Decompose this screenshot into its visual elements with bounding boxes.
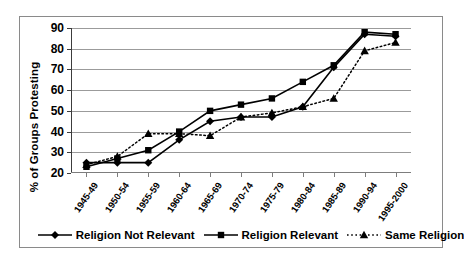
x-tick-mark [303,173,304,177]
x-tick-label: 1985-89 [319,180,348,214]
data-point-marker [207,108,213,114]
data-point-marker [269,95,275,101]
data-point-marker [361,29,367,35]
x-tick-mark [365,173,366,177]
x-tick-label: 1980-84 [288,180,317,214]
data-point-marker [51,231,59,239]
x-tick-mark [334,173,335,177]
legend-label: Same Religion [385,229,464,241]
x-tick-label: 1945-49 [72,180,101,214]
y-tick-label: 90 [51,21,64,35]
y-tick-label: 30 [51,145,64,159]
data-point-marker [300,79,306,85]
data-point-marker [330,94,338,102]
data-point-marker [238,101,244,107]
series-religion-relevant [83,29,398,170]
legend-swatch-square-icon [204,230,238,240]
series-religion-not-relevant [82,30,399,166]
series-layer [71,28,411,173]
x-tick-mark [179,173,180,177]
legend-swatch-diamond-icon [38,230,72,240]
chart-legend: Religion Not RelevantReligion RelevantSa… [71,227,431,243]
x-tick-label: 1960-64 [164,180,193,214]
y-tick-label: 80 [51,42,64,56]
chart-plot-frame: % of Groups Protesting 2030405060708090 … [19,16,443,248]
x-tick-label: 1970-74 [226,180,255,214]
series-line [86,32,395,167]
legend-item[interactable]: Religion Not Relevant [38,229,195,241]
x-tick-label: 1975-79 [257,180,286,214]
y-tick-label: 40 [51,125,64,139]
legend-item[interactable]: Same Religion [347,229,464,241]
plot-area: 2030405060708090 1945-491950-541955-5919… [71,28,411,173]
data-point-marker [391,38,399,46]
x-tick-mark [117,173,118,177]
y-tick-label: 70 [51,62,64,76]
x-tick-mark [148,173,149,177]
data-point-marker [217,232,223,238]
x-tick-mark [86,173,87,177]
x-tick-mark [210,173,211,177]
y-tick-mark [67,173,71,174]
y-tick-label: 60 [51,83,64,97]
data-point-marker [145,147,151,153]
data-point-marker [206,117,214,125]
x-tick-mark [241,173,242,177]
y-axis-title: % of Groups Protesting [28,47,46,207]
legend-label: Religion Not Relevant [76,229,195,241]
data-point-marker [206,132,214,140]
x-tick-label: 1950-54 [103,180,132,214]
data-point-marker [331,62,337,68]
legend-item[interactable]: Religion Relevant [204,229,339,241]
x-tick-label: 1965-69 [195,180,224,214]
series-line [86,34,395,162]
y-tick-label: 20 [51,166,64,180]
y-tick-label: 50 [51,104,64,118]
x-tick-mark [396,173,397,177]
legend-swatch-triangle-icon [347,230,381,240]
x-tick-label: 1995-2000 [375,180,410,223]
x-tick-label: 1990-94 [350,180,379,214]
legend-label: Religion Relevant [242,229,339,241]
x-tick-mark [272,173,273,177]
x-tick-label: 1955-59 [134,180,163,214]
data-point-marker [392,31,398,37]
